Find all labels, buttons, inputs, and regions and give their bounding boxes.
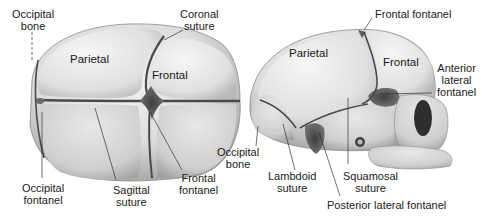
label-frontal-lateral: Frontal <box>383 56 419 68</box>
label-squamosal-suture: Squamosal suture <box>343 170 398 194</box>
label-line: suture <box>180 20 219 32</box>
label-line: suture <box>343 182 398 194</box>
label-occipital-fontanel: Occipital fontanel <box>22 182 64 206</box>
fetal-skull-diagram: Occipital bone Coronal suture Parietal F… <box>0 0 497 221</box>
label-line: bone <box>12 20 54 32</box>
label-lambdoid-suture: Lambdoid suture <box>268 170 316 194</box>
label-line: lateral <box>437 74 476 86</box>
label-line: Coronal <box>180 8 219 20</box>
label-posterior-lateral-fontanel: Posterior lateral fontanel <box>327 199 446 211</box>
ear-hole-center <box>358 140 363 145</box>
label-parietal-lateral: Parietal <box>289 47 328 59</box>
label-line: fontanel <box>179 184 218 196</box>
label-line: fontanel <box>437 86 476 98</box>
label-parietal-superior: Parietal <box>70 53 109 65</box>
lateral-view-skull <box>250 29 452 169</box>
label-line: Squamosal <box>343 170 398 182</box>
leader-frontal-fontanel <box>364 18 372 30</box>
label-frontal-fontanel-superior: Frontal fontanel <box>179 172 218 196</box>
label-line: Lambdoid <box>268 170 316 182</box>
label-line: Occipital <box>12 8 54 20</box>
superior-view-skull <box>30 24 240 181</box>
label-line: fontanel <box>22 194 64 206</box>
label-line: Anterior <box>437 62 476 74</box>
horizontal-suture-line <box>36 100 240 101</box>
occipital-fontanel-region <box>36 98 44 104</box>
label-occipital-bone-superior: Occipital bone <box>12 8 54 32</box>
label-occipital-bone-lateral: Occipital bone <box>217 146 259 170</box>
label-sagittal-suture: Sagittal suture <box>113 184 150 208</box>
label-line: Occipital <box>22 182 64 194</box>
label-line: Frontal <box>179 172 218 184</box>
label-coronal-suture: Coronal suture <box>180 8 219 32</box>
label-anterior-lateral-fontanel: Anterior lateral fontanel <box>437 62 476 98</box>
label-line: suture <box>268 182 316 194</box>
label-line: Occipital <box>217 146 259 158</box>
label-frontal-superior: Frontal <box>152 69 188 81</box>
orbit <box>414 100 432 136</box>
label-line: Sagittal <box>113 184 150 196</box>
label-line: bone <box>217 158 259 170</box>
lower-left-plate <box>40 104 141 180</box>
mandible-region <box>369 146 452 169</box>
label-frontal-fontanel-lateral: Frontal fontanel <box>375 8 451 20</box>
label-line: suture <box>113 196 150 208</box>
